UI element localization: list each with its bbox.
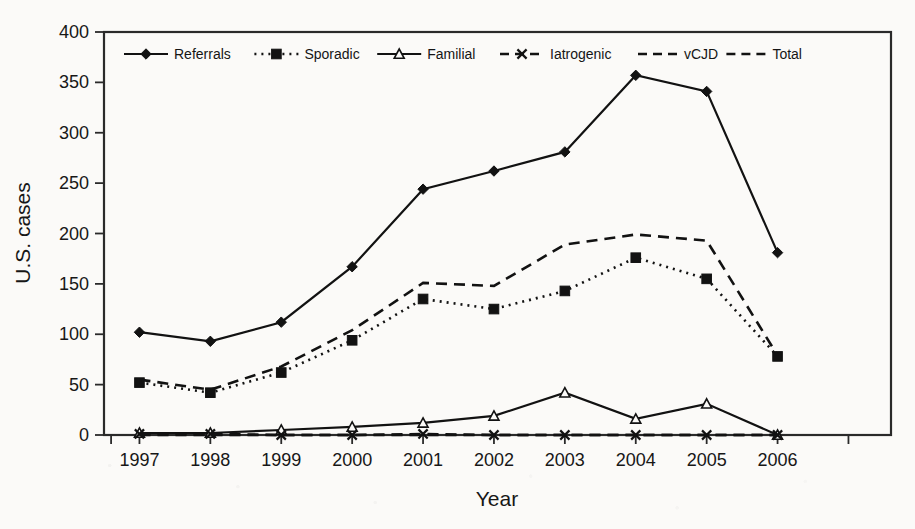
- y-tick-label: 350: [59, 72, 89, 92]
- x-axis: 1997199819992000200120022003200420052006: [111, 435, 848, 470]
- x-tick-label: 2002: [474, 450, 514, 470]
- x-tick-label: 1999: [261, 450, 301, 470]
- chart-figure: 050100150200250300350400 199719981999200…: [0, 0, 915, 529]
- data-point-square: [489, 304, 499, 314]
- legend-label[interactable]: Referrals: [174, 46, 231, 62]
- legend-label[interactable]: Total: [772, 46, 802, 62]
- legend-label[interactable]: Familial: [427, 46, 475, 62]
- series-layer: [134, 70, 783, 439]
- x-tick-label: 2004: [616, 450, 656, 470]
- legend-marker-square: [272, 49, 282, 59]
- legend-label[interactable]: vCJD: [684, 46, 718, 62]
- legend-label[interactable]: Iatrogenic: [550, 46, 611, 62]
- legend-label[interactable]: Sporadic: [304, 46, 359, 62]
- series-line: [140, 75, 778, 341]
- series-total: [140, 235, 778, 390]
- data-point-triangle: [560, 388, 570, 397]
- y-tick-label: 400: [59, 22, 89, 42]
- x-tick-label: 2005: [687, 450, 727, 470]
- y-tick-label: 0: [79, 425, 89, 445]
- line-chart: 050100150200250300350400 199719981999200…: [0, 0, 915, 529]
- x-tick-label: 2001: [403, 450, 443, 470]
- series-line: [140, 235, 778, 390]
- x-axis-title: Year: [476, 487, 518, 510]
- data-point-square: [702, 274, 712, 284]
- x-tick-label: 2006: [758, 450, 798, 470]
- data-point-square: [276, 368, 286, 378]
- series-familial: [134, 388, 782, 440]
- data-point-square: [631, 253, 641, 263]
- data-point-square: [347, 335, 357, 345]
- y-tick-label: 100: [59, 324, 89, 344]
- legend-marker-diamond: [141, 49, 151, 59]
- x-tick-label: 1998: [190, 450, 230, 470]
- y-axis-title: U.S. cases: [11, 182, 34, 284]
- series-line: [140, 258, 778, 393]
- plot-frame: [104, 32, 891, 435]
- chart-legend: ReferralsSporadicFamilialIatrogenicvCJDT…: [124, 46, 802, 62]
- series-referrals: [134, 70, 783, 346]
- y-tick-label: 300: [59, 123, 89, 143]
- y-tick-label: 250: [59, 173, 89, 193]
- data-point-square: [560, 286, 570, 296]
- data-point-diamond: [205, 336, 215, 346]
- series-line: [140, 393, 778, 435]
- data-point-diamond: [134, 327, 144, 337]
- series-sporadic: [135, 253, 783, 398]
- data-point-triangle: [702, 399, 712, 408]
- y-axis: 050100150200250300350400: [59, 22, 104, 445]
- plot-border: [104, 32, 891, 435]
- data-point-diamond: [772, 247, 782, 257]
- x-tick-label: 2000: [332, 450, 372, 470]
- data-point-square: [418, 294, 428, 304]
- y-tick-label: 50: [69, 375, 89, 395]
- data-point-diamond: [489, 166, 499, 176]
- y-tick-label: 150: [59, 274, 89, 294]
- data-point-diamond: [701, 86, 711, 96]
- x-tick-label: 1997: [119, 450, 159, 470]
- y-tick-label: 200: [59, 224, 89, 244]
- x-tick-label: 2003: [545, 450, 585, 470]
